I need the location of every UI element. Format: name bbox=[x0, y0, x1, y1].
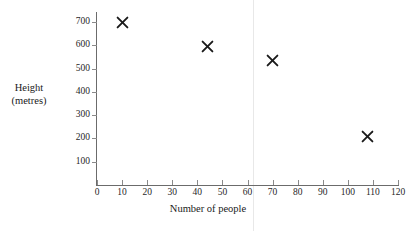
plot-area bbox=[97, 10, 398, 185]
y-tick-label: 100 bbox=[60, 156, 90, 167]
data-point-marker bbox=[266, 54, 279, 67]
x-tick-mark bbox=[398, 180, 399, 185]
data-point-marker bbox=[116, 16, 129, 29]
y-tick-label: 300 bbox=[60, 109, 90, 120]
y-tick-label: 500 bbox=[60, 63, 90, 74]
scatter-plot-figure: Height (metres) 100200300400500600700 01… bbox=[0, 0, 416, 231]
y-tick-label: 200 bbox=[60, 132, 90, 143]
x-axis-title: Number of people bbox=[0, 203, 416, 214]
y-tick-label: 700 bbox=[60, 16, 90, 27]
y-axis-title-line-2: (metres) bbox=[2, 95, 56, 108]
data-point-marker bbox=[201, 40, 214, 53]
y-axis-title: Height (metres) bbox=[2, 82, 56, 107]
y-tick-label: 400 bbox=[60, 86, 90, 97]
x-tick-label: 120 bbox=[383, 186, 413, 198]
y-tick-label: 600 bbox=[60, 39, 90, 50]
data-point-marker bbox=[361, 130, 374, 143]
y-axis-title-line-1: Height bbox=[2, 82, 56, 95]
